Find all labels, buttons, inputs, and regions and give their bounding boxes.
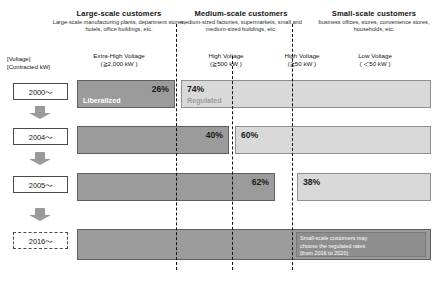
bar-regulated-2004: 60% xyxy=(235,126,431,154)
axis-caption-contracted: [Contracted kW] xyxy=(7,63,50,71)
bar-percent-label: 26% xyxy=(152,84,169,94)
group-subtitle-large: Large-scale manufacturing plants, depart… xyxy=(52,19,186,33)
bar-liberalized-2004: 40% xyxy=(77,126,229,154)
bar-percent-label: 60% xyxy=(241,130,258,140)
down-arrow-3 xyxy=(29,208,51,222)
note-box-small-scale: Small-scale customers may choose the reg… xyxy=(296,232,426,257)
voltage-class-name: High Voltage xyxy=(284,52,319,59)
arrow-shaft xyxy=(35,106,45,113)
arrow-head xyxy=(29,215,51,221)
note-line-1: Small-scale customers may xyxy=(300,235,422,243)
bar-regulated-2005: 38% xyxy=(297,173,431,201)
note-text: Small-scale customers may choose the reg… xyxy=(297,233,425,260)
divider-medium-small xyxy=(292,24,293,270)
diagram-canvas: Large-scale customers Large-scale manufa… xyxy=(0,0,446,287)
legend-label-regulated: Regulated xyxy=(187,96,222,105)
year-box-2005[interactable]: 2005～ xyxy=(13,176,68,193)
bar-liberalized-2000: 26% Liberalized xyxy=(77,80,175,108)
voltage-class-range: (≧500 kW ) xyxy=(186,60,266,68)
axis-caption-voltage: [Voltage] xyxy=(7,55,50,63)
group-title-large: Large-scale customers xyxy=(55,9,183,18)
year-box-2004[interactable]: 2004～ xyxy=(13,128,68,145)
down-arrow-2 xyxy=(29,152,51,166)
voltage-class-name: Low Voltage xyxy=(358,52,392,59)
divider-large-medium xyxy=(176,24,177,270)
axis-caption: [Voltage] [Contracted kW] xyxy=(7,55,50,71)
arrow-shaft xyxy=(35,152,45,159)
bar-percent-label: 38% xyxy=(303,177,320,187)
arrow-head xyxy=(29,159,51,165)
group-title-medium: Medium-scale customers xyxy=(178,9,304,18)
arrow-head xyxy=(29,113,51,119)
voltage-class-high-50: High Voltage (≧50 kW ) xyxy=(262,52,342,69)
note-line-3: (from 2016 to 2020) xyxy=(300,250,422,258)
voltage-class-range: (≧50 kW ) xyxy=(262,60,342,68)
voltage-class-low: Low Voltage ( ＜50 kW ) xyxy=(335,52,415,69)
bar-percent-label: 62% xyxy=(252,177,269,187)
voltage-class-range: ( ＜50 kW ) xyxy=(335,60,415,68)
legend-label-liberalized: Liberalized xyxy=(83,96,121,105)
bar-regulated-2000: 74% Regulated xyxy=(181,80,431,108)
divider-medium-medium xyxy=(232,56,233,270)
arrow-shaft xyxy=(35,208,45,215)
note-line-2: choose the regulated rates xyxy=(300,243,422,251)
voltage-class-range: (≧2,000 kW ) xyxy=(64,60,174,68)
year-box-2016[interactable]: 2016～ xyxy=(13,232,68,249)
voltage-class-name: Extra-High Voltage xyxy=(93,52,145,59)
bar-percent-label: 40% xyxy=(206,130,223,140)
group-title-small: Small-scale customers xyxy=(310,9,438,18)
voltage-class-high-500: High Voltage (≧500 kW ) xyxy=(186,52,266,69)
group-subtitle-small: business offices, stores, convenience st… xyxy=(311,19,437,33)
year-box-2000[interactable]: 2000～ xyxy=(13,83,68,100)
group-subtitle-medium: medium-sized factories, supermarkets, sm… xyxy=(176,19,306,33)
voltage-class-extra-high: Extra-High Voltage (≧2,000 kW ) xyxy=(64,52,174,69)
bar-percent-label: 74% xyxy=(187,84,204,94)
voltage-class-name: High Voltage xyxy=(208,52,243,59)
down-arrow-1 xyxy=(29,106,51,120)
